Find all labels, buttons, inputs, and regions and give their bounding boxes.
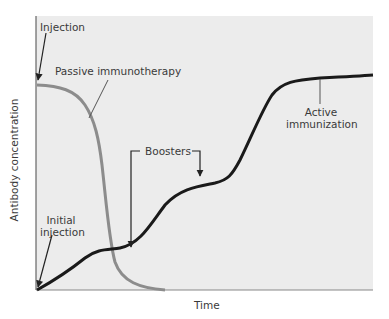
initial-line1: Initial — [40, 214, 82, 226]
injection-arrow — [38, 33, 46, 80]
active-line2: immunization — [286, 118, 356, 130]
initial-line2: injection — [40, 226, 82, 238]
injection-label: Injection — [40, 21, 85, 33]
passive-pointer — [89, 80, 108, 118]
chart-svg — [0, 0, 389, 319]
boosters-bracket-left — [131, 151, 140, 247]
passive-label: Passive immunotherapy — [55, 65, 181, 77]
boosters-bracket-right — [192, 151, 200, 176]
active-immunization-label: Active immunization — [286, 106, 356, 130]
initial-injection-arrow — [38, 235, 52, 287]
x-axis-label: Time — [194, 299, 220, 311]
boosters-label: Boosters — [145, 145, 191, 157]
active-line1: Active — [286, 106, 356, 118]
initial-injection-label: Initial injection — [40, 214, 82, 238]
y-axis-label: Antibody concentration — [8, 99, 20, 222]
passive-curve — [37, 85, 165, 290]
